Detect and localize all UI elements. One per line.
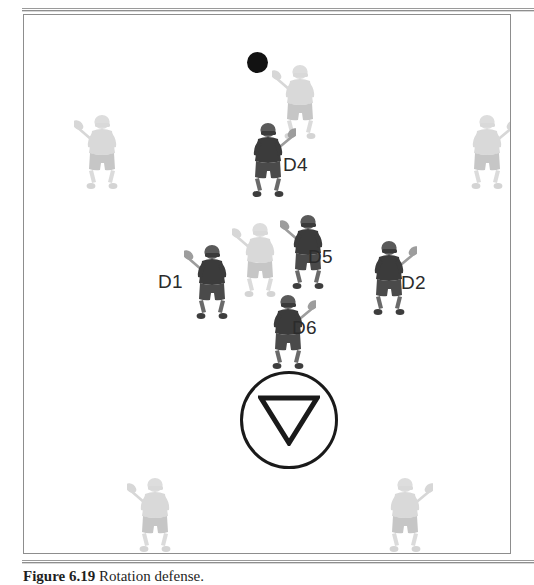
goal-triangle-icon	[258, 394, 320, 446]
figure-caption-text: Rotation defense.	[99, 568, 204, 584]
figure-caption: Figure 6.19 Rotation defense.	[23, 568, 523, 585]
attacker-figure-a-right-lower	[377, 470, 433, 554]
ball-icon	[247, 52, 268, 73]
defender-label-d6: D6	[292, 318, 317, 337]
attacker-figure-a-right-upper	[459, 107, 511, 193]
defender-label-d5: D5	[308, 247, 333, 266]
defender-label-d4: D4	[283, 155, 308, 174]
attacker-figure-a-left-upper	[74, 107, 130, 193]
defender-label-d2: D2	[401, 273, 426, 292]
figure-bottom-rule	[22, 560, 534, 564]
defender-figure-d1	[184, 237, 240, 323]
attacker-figure-a-left-lower	[127, 470, 183, 554]
figure-top-rule	[22, 8, 534, 12]
figure-caption-number: Figure 6.19	[23, 568, 95, 584]
defender-label-d1: D1	[158, 272, 183, 291]
lacrosse-field: D1D2D4D5D6	[23, 14, 511, 554]
